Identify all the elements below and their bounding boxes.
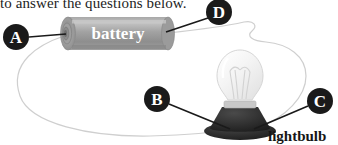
marker-a-letter: A <box>10 28 23 47</box>
bulb-base-body <box>210 107 270 132</box>
bulb-collar <box>224 101 256 108</box>
wire-left-loop <box>17 36 231 136</box>
marker-c: C <box>307 88 333 114</box>
battery-highlight-strip <box>72 20 166 24</box>
battery-graphic: battery <box>61 17 175 50</box>
marker-a: A <box>3 24 29 50</box>
marker-b-letter: B <box>151 90 162 109</box>
marker-d-letter: D <box>213 3 225 22</box>
marker-b: B <box>144 86 170 112</box>
lightbulb-caption: lightbulb <box>268 128 326 144</box>
marker-d: D <box>206 0 232 25</box>
battery-shadow-strip <box>72 45 166 49</box>
circuit-diagram: battery lightbulb <box>0 0 338 145</box>
figure-screenshot: to answer the questions below. <box>0 0 338 145</box>
marker-c-letter: C <box>314 92 326 111</box>
battery-label: battery <box>92 24 145 43</box>
